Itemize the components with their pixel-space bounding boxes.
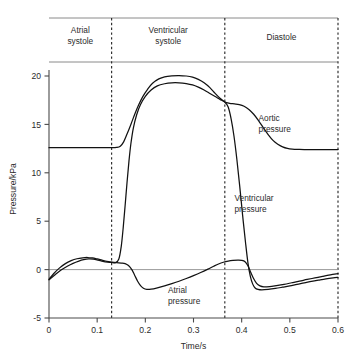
x-tick-label-0.6: 0.6 — [332, 325, 344, 335]
aortic-pressure-curve — [49, 76, 338, 150]
y-axis-tick-labels: -505101520 — [31, 71, 41, 323]
x-tick-label-0.5: 0.5 — [284, 325, 296, 335]
y-tick-label-0: 0 — [36, 265, 41, 275]
y-tick-label-20: 20 — [31, 71, 41, 81]
phase-label-diastole-line1: Diastole — [266, 32, 296, 42]
cardiac-pressure-chart: Atrial systole Ventricular systole Diast… — [0, 0, 360, 361]
chart-canvas: Atrial systole Ventricular systole Diast… — [0, 0, 360, 361]
phase-label-ventricular-systole-line1: Ventricular — [149, 25, 188, 35]
ventricular-pressure-annotation-line1: Ventricular — [234, 193, 273, 203]
y-axis-ticks — [45, 76, 50, 318]
x-tick-label-0.3: 0.3 — [188, 325, 200, 335]
atrial-pressure-annotation-line2: pressure — [168, 296, 201, 306]
y-tick-label--5: -5 — [33, 313, 41, 323]
y-tick-label-10: 10 — [31, 168, 41, 178]
ventricular-pressure-annotation-line2: pressure — [234, 204, 267, 214]
series-annotations: Aortic pressure Ventricular pressure Atr… — [168, 113, 291, 306]
x-axis-title: Time/s — [181, 341, 206, 351]
x-axis-tick-labels: 00.10.20.30.40.50.6 — [47, 325, 345, 335]
phase-label-atrial-systole-line1: Atrial — [71, 25, 90, 35]
y-tick-label-15: 15 — [31, 120, 41, 130]
ventricular-pressure-curve — [49, 83, 338, 290]
x-tick-label-0.1: 0.1 — [91, 325, 103, 335]
data-curves — [49, 76, 338, 290]
phase-label-ventricular-systole-line2: systole — [155, 36, 181, 46]
x-tick-label-0.4: 0.4 — [236, 325, 248, 335]
phase-label-atrial-systole-line2: systole — [67, 36, 93, 46]
x-tick-label-0: 0 — [47, 325, 52, 335]
phase-divider-group — [112, 18, 338, 318]
aortic-pressure-annotation-line2: pressure — [259, 124, 292, 134]
y-axis-title: Pressure/kPa — [8, 163, 18, 215]
atrial-pressure-annotation-line1: Atrial — [168, 285, 187, 295]
x-tick-label-0.2: 0.2 — [139, 325, 151, 335]
aortic-pressure-annotation-line1: Aortic — [259, 113, 280, 123]
x-axis-ticks — [49, 318, 338, 323]
y-tick-label-5: 5 — [36, 216, 41, 226]
phase-labels: Atrial systole Ventricular systole Diast… — [67, 25, 296, 46]
